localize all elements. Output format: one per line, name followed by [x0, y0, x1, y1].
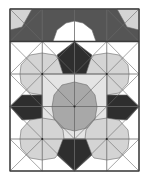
vertex-dot [41, 73, 43, 75]
tiling-diagram [0, 0, 148, 179]
vertex-dot [74, 106, 76, 108]
vertex-dot [106, 73, 108, 75]
vertex-dot [41, 138, 43, 140]
vertex-dot [106, 138, 108, 140]
